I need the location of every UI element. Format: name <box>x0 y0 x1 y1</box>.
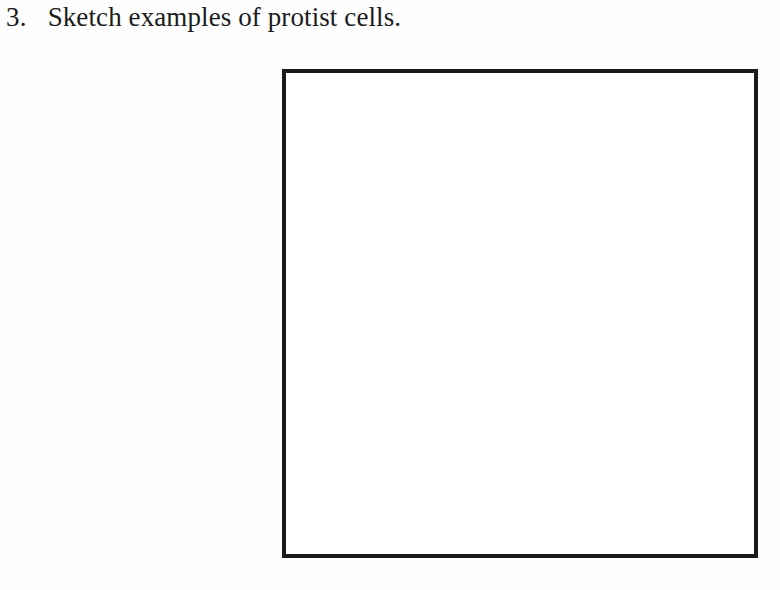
question-number: 3. <box>6 0 27 34</box>
worksheet-page: 3. Sketch examples of protist cells. <box>0 0 780 590</box>
sketch-answer-area[interactable] <box>286 73 754 554</box>
sketch-answer-box[interactable] <box>282 69 758 558</box>
question-text: Sketch examples of protist cells. <box>48 0 401 34</box>
question-item-3: 3. Sketch examples of protist cells. <box>6 0 401 34</box>
